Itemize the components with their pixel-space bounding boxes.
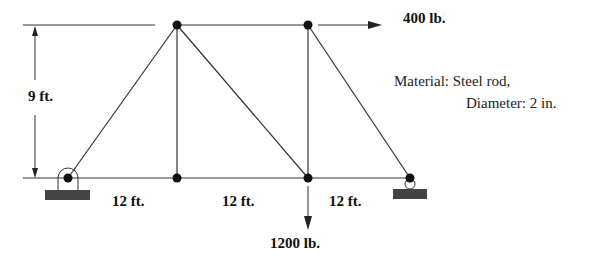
node-bottom-3 <box>304 174 313 183</box>
right-support-base <box>393 189 427 199</box>
member-right-diagonal <box>308 25 410 178</box>
arrow-up-icon <box>32 26 38 36</box>
span3-label: 12 ft. <box>329 193 362 210</box>
material-label: Material: Steel rod, <box>394 73 510 90</box>
horizontal-load-label: 400 lb. <box>403 10 446 27</box>
vertical-load-label: 1200 lb. <box>270 235 320 252</box>
left-support-base <box>45 190 90 200</box>
member-center-diagonal <box>177 25 308 178</box>
node-top-left <box>173 21 182 30</box>
span2-label: 12 ft. <box>222 193 255 210</box>
arrow-down-icon <box>32 168 38 178</box>
span1-label: 12 ft. <box>112 193 145 210</box>
node-bottom-1 <box>64 174 73 183</box>
member-left-diagonal <box>68 25 177 178</box>
arrow-right-icon <box>368 21 382 29</box>
node-bottom-2 <box>173 174 182 183</box>
node-bottom-4 <box>406 174 415 183</box>
arrow-down-load-icon <box>304 216 312 230</box>
node-top-right <box>304 21 313 30</box>
truss-diagram <box>0 0 596 265</box>
height-label: 9 ft. <box>28 88 53 105</box>
diameter-label: Diameter: 2 in. <box>466 95 556 112</box>
